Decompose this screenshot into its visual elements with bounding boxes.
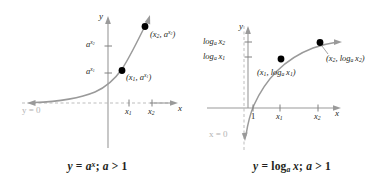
panel-exponential-graph: y x y = 0 ax2 ax1 x1 x2 (x1, ax1) (x2, a…: [0, 0, 195, 188]
y-axis-label-exponential: y: [99, 12, 103, 21]
caption-exponential: y = ax; a > 1: [0, 160, 195, 172]
logarithmic-curve-path: [246, 43, 335, 136]
point-label-1-logarithmic: (x1, loga x1): [257, 68, 296, 78]
x-tick-label-x2: x2: [314, 112, 321, 122]
point-label-2-logarithmic: (x2, loga x2): [326, 54, 365, 64]
point-label-2-exponential: (x2, ax2): [150, 30, 175, 40]
caption-logarithmic: y = loga x; a > 1: [195, 160, 389, 174]
curve-right-arrowhead: [334, 39, 342, 45]
figure-root: y x y = 0 ax2 ax1 x1 x2 (x1, ax1) (x2, a…: [0, 0, 389, 188]
point-label-1-exponential: (x1, ax1): [126, 73, 151, 83]
asymptote-label-x-equals-zero: x = 0: [209, 130, 228, 139]
exponential-curve-path: [34, 22, 147, 103]
y-tick-label-log-a-x1: loga x1: [203, 52, 225, 62]
x-tick-label-x1: x1: [125, 107, 132, 117]
y-tick-label-a-pow-x2: ax2: [86, 40, 95, 49]
panel-logarithmic-graph: y x x = 0 loga x2 loga x1 1 x1 x2 (x1, l…: [195, 0, 389, 188]
x-axis-arrowhead: [170, 100, 178, 106]
x-axis-label-exponential: x: [178, 104, 182, 113]
x-tick-label-x1: x1: [276, 112, 283, 122]
y-tick-label-a-pow-x1: ax1: [86, 67, 95, 76]
curve-bottom-arrowhead: [242, 133, 248, 141]
asymptote-label-y-equals-zero: y = 0: [22, 106, 41, 115]
x-tick-label-one: 1: [251, 112, 255, 121]
y-axis-arrowhead: [105, 16, 111, 24]
data-point-2: [142, 23, 149, 30]
x-axis-label-logarithmic: x: [335, 109, 339, 118]
x-tick-label-x2: x2: [148, 107, 155, 117]
y-tick-label-log-a-x2: loga x2: [203, 37, 225, 47]
data-point-2: [317, 39, 324, 46]
data-point-1: [278, 56, 285, 63]
data-point-1: [119, 67, 126, 74]
exponential-plot-svg: [0, 0, 195, 155]
y-axis-arrowhead: [245, 26, 251, 34]
y-axis-label-logarithmic: y: [239, 22, 243, 31]
